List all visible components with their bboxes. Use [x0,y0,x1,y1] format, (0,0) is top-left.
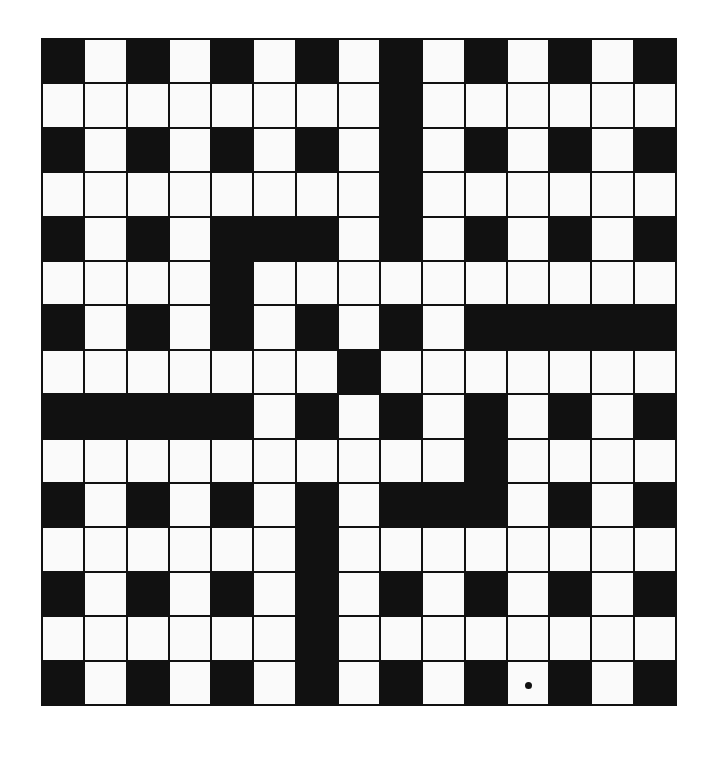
crossword-cell[interactable] [339,662,379,704]
crossword-cell[interactable] [423,262,463,304]
crossword-cell[interactable] [592,262,632,304]
crossword-cell[interactable] [170,484,210,526]
crossword-cell[interactable] [423,440,463,482]
crossword-cell[interactable] [170,662,210,704]
crossword-cell[interactable] [339,173,379,215]
crossword-cell[interactable] [170,129,210,171]
crossword-cell[interactable] [550,617,590,659]
crossword-cell[interactable] [508,40,548,82]
crossword-cell[interactable] [508,351,548,393]
crossword-cell[interactable] [592,528,632,570]
crossword-cell[interactable] [85,218,125,260]
crossword-cell[interactable] [212,351,252,393]
crossword-cell[interactable] [85,306,125,348]
crossword-cell[interactable] [43,351,83,393]
crossword-cell[interactable] [339,40,379,82]
crossword-cell[interactable] [635,617,675,659]
crossword-cell[interactable] [85,617,125,659]
crossword-cell[interactable] [550,173,590,215]
crossword-cell[interactable] [592,484,632,526]
crossword-cell[interactable] [508,440,548,482]
crossword-cell[interactable] [508,395,548,437]
crossword-cell[interactable] [339,395,379,437]
crossword-cell[interactable] [423,306,463,348]
crossword-cell[interactable] [592,40,632,82]
crossword-cell[interactable] [550,440,590,482]
crossword-cell[interactable] [423,662,463,704]
crossword-cell[interactable] [254,662,294,704]
crossword-cell[interactable] [592,84,632,126]
crossword-cell[interactable] [508,528,548,570]
crossword-cell[interactable] [339,306,379,348]
crossword-cell[interactable] [85,173,125,215]
crossword-cell[interactable] [297,351,337,393]
crossword-cell[interactable] [43,617,83,659]
crossword-cell[interactable] [592,617,632,659]
crossword-cell[interactable] [339,218,379,260]
crossword-cell[interactable] [128,84,168,126]
crossword-cell[interactable] [170,40,210,82]
crossword-cell[interactable] [592,662,632,704]
crossword-cell[interactable] [466,617,506,659]
crossword-cell[interactable] [550,528,590,570]
crossword-cell[interactable] [339,440,379,482]
crossword-cell[interactable] [170,528,210,570]
crossword-cell[interactable] [170,218,210,260]
crossword-cell[interactable] [508,262,548,304]
crossword-cell[interactable] [297,84,337,126]
crossword-cell[interactable] [212,84,252,126]
crossword-cell[interactable] [423,528,463,570]
crossword-cell[interactable] [381,617,421,659]
crossword-cell[interactable] [423,84,463,126]
crossword-cell[interactable] [635,84,675,126]
crossword-cell[interactable] [466,84,506,126]
crossword-cell[interactable] [212,173,252,215]
crossword-cell[interactable] [297,262,337,304]
crossword-cell[interactable] [466,262,506,304]
crossword-cell[interactable] [85,262,125,304]
crossword-cell[interactable] [635,173,675,215]
crossword-cell[interactable] [85,484,125,526]
crossword-cell[interactable] [592,573,632,615]
crossword-cell[interactable] [466,351,506,393]
crossword-cell[interactable] [339,484,379,526]
crossword-cell[interactable] [339,262,379,304]
crossword-cell[interactable] [212,528,252,570]
crossword-cell[interactable] [85,129,125,171]
crossword-cell[interactable] [212,617,252,659]
crossword-cell[interactable] [254,40,294,82]
crossword-cell[interactable] [170,173,210,215]
crossword-cell[interactable] [508,218,548,260]
crossword-cell[interactable] [339,528,379,570]
crossword-cell[interactable] [381,528,421,570]
crossword-cell[interactable] [170,617,210,659]
crossword-cell[interactable] [466,173,506,215]
crossword-cell[interactable] [43,528,83,570]
crossword-cell[interactable] [592,173,632,215]
crossword-cell[interactable] [128,173,168,215]
crossword-cell[interactable] [254,84,294,126]
crossword-cell[interactable] [254,484,294,526]
crossword-cell[interactable] [508,573,548,615]
crossword-cell[interactable] [508,662,548,704]
crossword-cell[interactable] [635,351,675,393]
crossword-cell[interactable] [508,617,548,659]
crossword-cell[interactable] [254,617,294,659]
crossword-cell[interactable] [423,129,463,171]
crossword-cell[interactable] [85,573,125,615]
crossword-cell[interactable] [170,84,210,126]
crossword-cell[interactable] [254,395,294,437]
crossword-cell[interactable] [254,573,294,615]
crossword-cell[interactable] [128,617,168,659]
crossword-cell[interactable] [128,351,168,393]
crossword-cell[interactable] [43,440,83,482]
crossword-cell[interactable] [592,351,632,393]
crossword-cell[interactable] [592,218,632,260]
crossword-cell[interactable] [254,306,294,348]
crossword-cell[interactable] [423,395,463,437]
crossword-cell[interactable] [85,440,125,482]
crossword-cell[interactable] [128,440,168,482]
crossword-cell[interactable] [297,440,337,482]
crossword-cell[interactable] [592,440,632,482]
crossword-cell[interactable] [339,129,379,171]
